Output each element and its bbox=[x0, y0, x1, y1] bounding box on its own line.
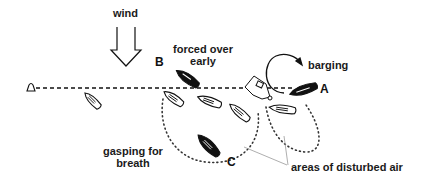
boat-white bbox=[227, 101, 251, 123]
buoy-icon bbox=[27, 84, 35, 92]
curved-arrow-icon bbox=[266, 54, 302, 93]
boat-white bbox=[162, 88, 185, 108]
boat-white bbox=[196, 93, 222, 109]
wind-arrow-icon bbox=[111, 27, 141, 66]
gasping-line1: gasping for bbox=[103, 145, 163, 157]
forced-over-label: forced over early bbox=[173, 43, 233, 67]
sailing-start-diagram: wind forced over early barging gasping f… bbox=[0, 0, 426, 183]
barging-label: barging bbox=[308, 59, 348, 71]
boat-letter-a: A bbox=[320, 83, 329, 95]
forced-over-line1: forced over bbox=[173, 43, 233, 55]
diagram-graphics bbox=[0, 0, 426, 183]
disturbed-air-label: areas of disturbed air bbox=[291, 161, 403, 173]
boat-black-c bbox=[195, 132, 222, 159]
gasping-line2: breath bbox=[103, 157, 163, 169]
pointer-line bbox=[284, 136, 288, 165]
boat-black-a bbox=[288, 81, 318, 98]
pointer-line bbox=[244, 147, 287, 165]
boat-white bbox=[82, 90, 102, 110]
boat-letter-b: B bbox=[155, 56, 164, 68]
boat-black-b bbox=[174, 67, 201, 90]
gasping-label: gasping for breath bbox=[103, 145, 163, 169]
boat-white bbox=[269, 103, 297, 115]
forced-over-line2: early bbox=[173, 55, 233, 67]
boat-letter-c: C bbox=[227, 156, 236, 168]
wind-label: wind bbox=[113, 7, 138, 19]
